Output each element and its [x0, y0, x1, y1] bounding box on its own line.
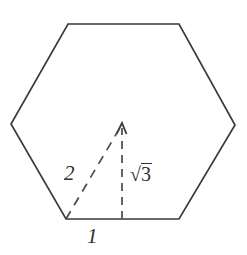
- label-height: √3: [130, 163, 152, 184]
- figure-canvas: [0, 0, 247, 255]
- radical-sign-icon: √3: [130, 163, 152, 184]
- label-slant-side: 2: [64, 163, 75, 184]
- label-base: 1: [87, 226, 98, 247]
- radical-glyph: √: [130, 163, 141, 185]
- hexagon-outline: [11, 24, 235, 219]
- hexagon-figure: 2 √3 1: [0, 0, 247, 255]
- radicand-value: 3: [141, 163, 152, 184]
